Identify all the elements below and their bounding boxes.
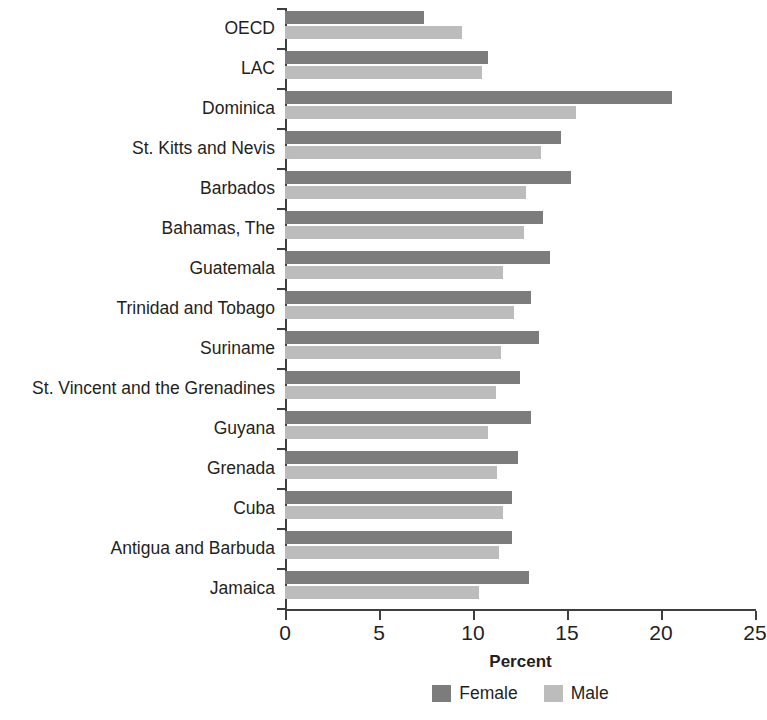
bar-male bbox=[285, 106, 576, 119]
bar-group bbox=[285, 248, 755, 288]
y-axis-tick bbox=[277, 568, 285, 570]
y-axis-tick bbox=[277, 208, 285, 210]
x-axis-tick-label: 15 bbox=[555, 620, 578, 646]
bar-male bbox=[285, 66, 482, 79]
x-axis-tick bbox=[473, 611, 475, 620]
y-axis-label: Guatemala bbox=[9, 258, 285, 278]
x-axis-tick-label: 10 bbox=[461, 620, 484, 646]
y-axis-category-labels: OECDLACDominicaSt. Kitts and NevisBarbad… bbox=[0, 8, 285, 608]
chart-legend: FemaleMale bbox=[285, 683, 756, 703]
bar-female bbox=[285, 11, 424, 24]
x-axis-tick-label: 0 bbox=[279, 620, 291, 646]
bar-group bbox=[285, 48, 755, 88]
bar-group bbox=[285, 288, 755, 328]
bar-group bbox=[285, 8, 755, 48]
bar-female bbox=[285, 291, 531, 304]
bar-female bbox=[285, 451, 518, 464]
bar-group bbox=[285, 448, 755, 488]
x-axis-tick-label: 20 bbox=[649, 620, 672, 646]
bar-female bbox=[285, 91, 672, 104]
y-axis-label: Dominica bbox=[9, 98, 285, 118]
legend-label: Female bbox=[459, 683, 517, 703]
bar-female bbox=[285, 531, 512, 544]
y-axis-tick bbox=[277, 608, 285, 610]
bar-group bbox=[285, 88, 755, 128]
y-axis-tick bbox=[277, 168, 285, 170]
bar-group bbox=[285, 368, 755, 408]
y-axis-label: OECD bbox=[9, 18, 285, 38]
plot-area bbox=[285, 8, 755, 608]
x-axis-tick bbox=[755, 611, 757, 620]
bar-group bbox=[285, 408, 755, 448]
bar-female bbox=[285, 51, 488, 64]
x-axis-tick bbox=[567, 611, 569, 620]
bar-male bbox=[285, 146, 541, 159]
bar-male bbox=[285, 466, 497, 479]
y-axis-tick bbox=[277, 408, 285, 410]
x-axis-tick bbox=[379, 611, 381, 620]
x-axis-tick-label: 5 bbox=[373, 620, 385, 646]
bar-female bbox=[285, 171, 571, 184]
legend-label: Male bbox=[571, 683, 609, 703]
legend-swatch-icon bbox=[432, 685, 451, 702]
bar-group bbox=[285, 168, 755, 208]
x-axis-tick bbox=[661, 611, 663, 620]
bar-female bbox=[285, 211, 543, 224]
bar-female bbox=[285, 371, 520, 384]
y-axis-label: Suriname bbox=[9, 338, 285, 358]
y-axis-label: Guyana bbox=[9, 418, 285, 438]
bar-female bbox=[285, 411, 531, 424]
y-axis-tick bbox=[277, 48, 285, 50]
y-axis-label: Bahamas, The bbox=[9, 218, 285, 238]
bar-male bbox=[285, 266, 503, 279]
bar-male bbox=[285, 386, 496, 399]
bar-group bbox=[285, 528, 755, 568]
bar-group bbox=[285, 328, 755, 368]
bar-male bbox=[285, 546, 499, 559]
y-axis-tick bbox=[277, 328, 285, 330]
y-axis-label: St. Vincent and the Grenadines bbox=[9, 378, 285, 398]
x-axis-tick-labels: 0510152025 bbox=[285, 620, 756, 648]
bar-male bbox=[285, 26, 462, 39]
legend-item: Male bbox=[544, 683, 609, 703]
y-axis-label: Antigua and Barbuda bbox=[9, 538, 285, 558]
y-axis-tick bbox=[277, 368, 285, 370]
y-axis-label: Cuba bbox=[9, 498, 285, 518]
y-axis-label: Barbados bbox=[9, 178, 285, 198]
bar-female bbox=[285, 571, 529, 584]
y-axis-label: LAC bbox=[9, 58, 285, 78]
y-axis-tick bbox=[277, 8, 285, 10]
x-axis-title: Percent bbox=[285, 652, 756, 672]
y-axis-label: Grenada bbox=[9, 458, 285, 478]
y-axis-tick bbox=[277, 488, 285, 490]
bar-female bbox=[285, 131, 561, 144]
bar-group bbox=[285, 128, 755, 168]
bar-male bbox=[285, 346, 501, 359]
bar-male bbox=[285, 306, 514, 319]
bar-group bbox=[285, 208, 755, 248]
bar-group bbox=[285, 488, 755, 528]
bar-female bbox=[285, 331, 539, 344]
y-axis-tick bbox=[277, 288, 285, 290]
x-axis-tick-label: 25 bbox=[743, 620, 766, 646]
y-axis-label: Jamaica bbox=[9, 578, 285, 598]
bar-male bbox=[285, 226, 524, 239]
bar-group bbox=[285, 568, 755, 608]
bar-female bbox=[285, 251, 550, 264]
bar-rows bbox=[285, 8, 755, 608]
y-axis-label: Trinidad and Tobago bbox=[9, 298, 285, 318]
y-axis-tick bbox=[277, 528, 285, 530]
y-axis-tick bbox=[277, 88, 285, 90]
bar-male bbox=[285, 426, 488, 439]
bar-male bbox=[285, 586, 479, 599]
x-axis-tick bbox=[285, 611, 287, 620]
legend-item: Female bbox=[432, 683, 517, 703]
y-axis-label: St. Kitts and Nevis bbox=[9, 138, 285, 158]
y-axis-tick bbox=[277, 128, 285, 130]
y-axis-tick bbox=[277, 448, 285, 450]
bar-male bbox=[285, 506, 503, 519]
bar-male bbox=[285, 186, 526, 199]
y-axis-tick bbox=[277, 248, 285, 250]
bar-female bbox=[285, 491, 512, 504]
